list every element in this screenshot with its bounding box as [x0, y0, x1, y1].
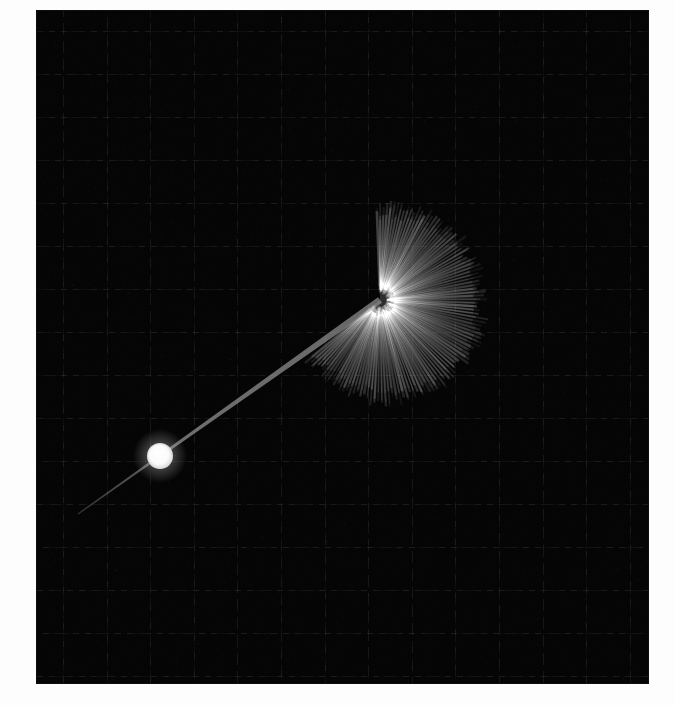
- visualization-root: [0, 0, 675, 705]
- render-layer: [37, 11, 648, 683]
- plot-area: [37, 11, 648, 683]
